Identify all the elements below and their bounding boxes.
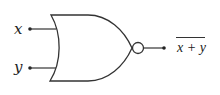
input-x: x — [14, 20, 56, 38]
input-y-label: y — [13, 58, 23, 76]
output-label: x + y — [176, 40, 207, 55]
input-y: y — [13, 58, 56, 76]
input-x-label: x — [14, 20, 23, 38]
nor-gate-diagram: x y x + y — [0, 0, 220, 95]
inversion-bubble — [133, 43, 144, 54]
output-terminal — [162, 46, 166, 50]
or-gate-body — [50, 15, 132, 81]
output-expression: x + y — [176, 38, 207, 56]
